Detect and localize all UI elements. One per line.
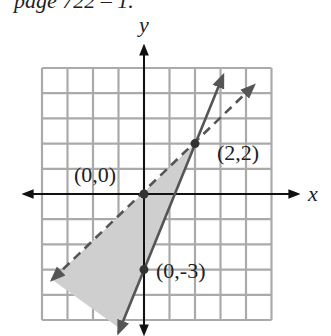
point-label: (0,0) xyxy=(74,162,116,187)
point-marker xyxy=(140,190,149,199)
point-marker xyxy=(191,139,200,148)
point-label: (2,2) xyxy=(217,140,259,165)
point-label: (0,-3) xyxy=(156,258,205,283)
x-axis-label: x xyxy=(307,181,318,206)
point-marker xyxy=(140,265,149,274)
y-axis-label: y xyxy=(137,12,149,37)
inequality-graph: xy (0,0)(2,2)(0,-3) xyxy=(0,0,331,336)
